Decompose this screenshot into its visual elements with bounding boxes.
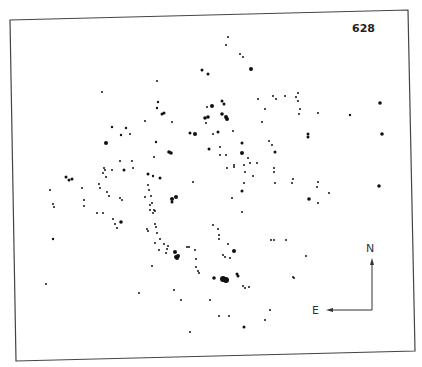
star: [316, 186, 318, 188]
star: [156, 232, 158, 234]
star: [233, 164, 235, 166]
star: [195, 258, 197, 260]
north-arrow-head: [370, 258, 374, 265]
star: [156, 80, 158, 82]
star: [307, 133, 310, 136]
star: [159, 238, 161, 240]
star: [99, 187, 101, 189]
star: [257, 98, 259, 100]
east-label: E: [312, 304, 319, 317]
star: [241, 142, 244, 145]
star: [189, 331, 191, 333]
star: [292, 178, 294, 180]
star: [239, 53, 241, 55]
star: [120, 134, 122, 136]
star: [195, 266, 197, 268]
star: [219, 146, 221, 148]
star: [147, 173, 150, 176]
star: [201, 69, 204, 72]
star: [198, 272, 200, 274]
star: [221, 100, 224, 103]
star: [146, 228, 148, 230]
star: [223, 277, 229, 283]
star: [295, 96, 297, 98]
star: [45, 283, 47, 285]
star: [224, 256, 226, 258]
star: [163, 243, 165, 245]
star: [227, 36, 229, 38]
star: [167, 245, 169, 247]
star: [116, 227, 118, 229]
star: [102, 172, 104, 174]
star: [151, 202, 153, 204]
star: [123, 169, 126, 172]
star: [149, 209, 151, 211]
star: [163, 112, 166, 115]
star: [157, 101, 159, 103]
star: [218, 238, 220, 240]
star: [192, 181, 194, 183]
east-arrow-head: [326, 308, 333, 312]
star: [223, 103, 226, 106]
star: [104, 169, 106, 171]
compass: [326, 258, 374, 312]
star: [247, 157, 249, 159]
star: [225, 44, 227, 46]
star: [144, 120, 146, 122]
star: [270, 239, 272, 241]
star: [274, 182, 276, 184]
star: [194, 249, 196, 251]
star: [149, 204, 151, 206]
star: [209, 299, 211, 301]
star: [243, 164, 245, 166]
star: [229, 257, 231, 259]
star: [193, 132, 197, 136]
star: [188, 246, 190, 248]
star: [285, 239, 287, 241]
star: [71, 178, 74, 181]
star: [156, 107, 158, 109]
star: [261, 121, 263, 123]
star: [125, 127, 127, 129]
star: [147, 230, 149, 232]
star: [53, 206, 55, 208]
star: [217, 228, 219, 230]
star: [243, 326, 246, 329]
star: [138, 292, 140, 294]
star: [165, 252, 167, 254]
star: [176, 254, 180, 258]
star: [272, 95, 274, 97]
star: [226, 167, 228, 169]
star: [186, 246, 188, 248]
star: [244, 171, 246, 173]
star: [111, 126, 113, 128]
star: [269, 309, 271, 311]
star: [217, 131, 220, 134]
star: [317, 112, 319, 114]
star: [189, 132, 192, 135]
star: [49, 189, 51, 191]
star: [264, 108, 266, 110]
star: [284, 95, 286, 97]
star: [256, 162, 258, 164]
star: [207, 73, 210, 76]
star: [158, 249, 160, 251]
star: [273, 167, 275, 169]
star: [227, 243, 229, 245]
star: [212, 224, 214, 226]
star: [228, 315, 230, 317]
star: [232, 130, 234, 132]
star: [205, 122, 207, 124]
star: [152, 175, 154, 177]
star: [240, 151, 244, 155]
star: [232, 249, 236, 253]
star: [147, 184, 149, 186]
star: [52, 203, 54, 205]
star: [154, 210, 156, 212]
star: [148, 189, 150, 191]
star: [108, 195, 110, 197]
star: [244, 287, 246, 289]
star: [119, 160, 121, 162]
star: [171, 121, 173, 123]
star: [171, 201, 174, 204]
